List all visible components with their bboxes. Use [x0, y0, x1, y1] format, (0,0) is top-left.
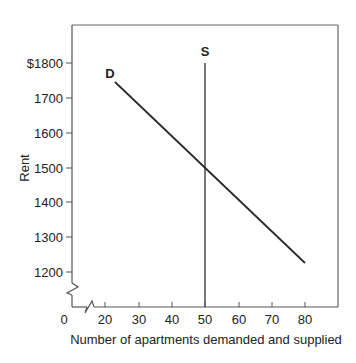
x-tick-80: 80 [298, 312, 312, 327]
supply-demand-chart: $1800 1700 1600 1500 1400 1300 1200 0 20… [0, 0, 356, 363]
y-tick-1800: $1800 [27, 56, 63, 71]
y-axis-break [67, 283, 78, 295]
x-tick-labels: 0 20 30 40 50 60 70 80 [60, 312, 312, 327]
demand-label: D [105, 66, 114, 81]
y-tick-1500: 1500 [34, 161, 63, 176]
y-axis-title: Rent [17, 154, 32, 182]
supply-label: S [201, 44, 210, 59]
y-tick-1400: 1400 [34, 195, 63, 210]
x-axis-title: Number of apartments demanded and suppli… [70, 332, 342, 347]
x-tick-20: 20 [98, 312, 112, 327]
y-axis [66, 25, 78, 307]
y-tick-labels: $1800 1700 1600 1500 1400 1300 1200 [27, 56, 63, 280]
y-tick-1200: 1200 [34, 265, 63, 280]
y-tick-1700: 1700 [34, 91, 63, 106]
y-tick-1600: 1600 [34, 126, 63, 141]
y-tick-1300: 1300 [34, 230, 63, 245]
x-tick-30: 30 [132, 312, 146, 327]
x-tick-0: 0 [60, 312, 67, 327]
x-tick-60: 60 [232, 312, 246, 327]
x-tick-40: 40 [165, 312, 179, 327]
demand-curve [115, 82, 305, 263]
x-tick-70: 70 [265, 312, 279, 327]
x-tick-50: 50 [198, 312, 212, 327]
